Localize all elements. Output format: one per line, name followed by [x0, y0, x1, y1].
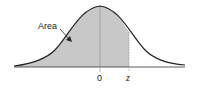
mean-tick-label: 0 — [97, 73, 102, 83]
shaded-area — [14, 6, 129, 67]
z-tick-label: z — [125, 72, 130, 83]
area-label: Area — [38, 21, 57, 31]
normal-curve-diagram: Area 0 z — [0, 0, 198, 89]
